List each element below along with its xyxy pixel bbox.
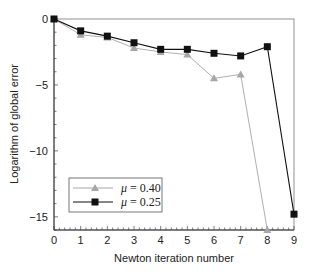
square-marker-icon bbox=[211, 50, 218, 57]
square-marker-icon bbox=[104, 33, 111, 40]
x-tick-label: 8 bbox=[264, 234, 270, 246]
x-tick-label: 9 bbox=[291, 234, 297, 246]
square-marker-icon bbox=[184, 46, 191, 53]
y-tick-label: −10 bbox=[29, 145, 48, 157]
square-marker-icon bbox=[264, 43, 271, 50]
x-tick-label: 2 bbox=[104, 234, 110, 246]
triangle-marker-icon bbox=[237, 70, 245, 77]
convergence-chart: 01234567890−5−10−15 Newton iteration num… bbox=[0, 0, 313, 272]
x-tick-label: 1 bbox=[78, 234, 84, 246]
y-tick-label: −5 bbox=[35, 79, 48, 91]
x-tick-label: 4 bbox=[158, 234, 164, 246]
square-marker-icon bbox=[291, 211, 298, 218]
square-marker-icon bbox=[237, 52, 244, 59]
square-marker-icon bbox=[77, 27, 84, 34]
square-marker-icon bbox=[157, 46, 164, 53]
square-marker-icon bbox=[51, 16, 58, 23]
y-tick-label: −15 bbox=[29, 211, 48, 223]
x-tick-label: 7 bbox=[238, 234, 244, 246]
square-marker-icon bbox=[131, 39, 138, 46]
y-tick-label: 0 bbox=[42, 13, 48, 25]
legend: μ = 0.40 μ = 0.25 bbox=[69, 178, 162, 212]
svg-text:μ = 0.25: μ = 0.25 bbox=[120, 195, 161, 209]
svg-text:μ = 0.40: μ = 0.40 bbox=[120, 181, 161, 195]
x-tick-label: 3 bbox=[131, 234, 137, 246]
square-marker-icon bbox=[92, 199, 99, 206]
x-tick-label: 0 bbox=[51, 234, 57, 246]
x-tick-label: 6 bbox=[211, 234, 217, 246]
x-tick-label: 5 bbox=[184, 234, 190, 246]
x-axis-label: Newton iteration number bbox=[114, 252, 234, 264]
y-axis-label: Logarithm of global error bbox=[8, 64, 20, 184]
